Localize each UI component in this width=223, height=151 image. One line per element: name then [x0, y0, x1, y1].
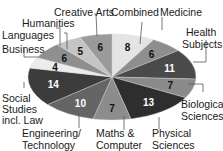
slice-value: 11: [164, 63, 175, 74]
label-medicine: Medicine: [160, 6, 202, 18]
label-bio-1: Biological: [181, 98, 223, 110]
slice-value: 7: [167, 80, 173, 91]
slice-value: 13: [143, 97, 155, 108]
label-business: Business: [2, 43, 45, 55]
label-humanities: Humanities: [22, 17, 75, 29]
label-maths-1: Maths &: [96, 127, 135, 139]
label-eng-2: Technology: [22, 139, 76, 151]
label-languages: Languages: [2, 29, 54, 41]
label-phys-1: Physical: [152, 127, 191, 139]
label-health-2: Subjects: [182, 38, 222, 50]
slice-value: 7: [109, 103, 115, 114]
pie-chart: 8611713710144656 Creative Arts Humanitie…: [0, 0, 223, 151]
slice-value: 14: [48, 79, 60, 90]
label-phys-2: Sciences: [152, 139, 195, 151]
label-social-3: incl. Law: [2, 114, 43, 126]
label-maths-2: Computer: [96, 139, 143, 151]
slice-value: 8: [125, 42, 131, 53]
label-health-1: Health: [186, 26, 217, 38]
slice-value: 6: [98, 42, 104, 53]
slice-value: 10: [75, 98, 87, 109]
slice-value: 5: [78, 46, 84, 57]
slice-value: 6: [62, 53, 68, 64]
slice-value: 4: [52, 62, 58, 73]
label-eng-1: Engineering/: [22, 127, 81, 139]
slice-value: 6: [149, 49, 155, 60]
label-bio-2: Sciences: [181, 110, 223, 122]
label-combined: Combined: [111, 6, 159, 18]
